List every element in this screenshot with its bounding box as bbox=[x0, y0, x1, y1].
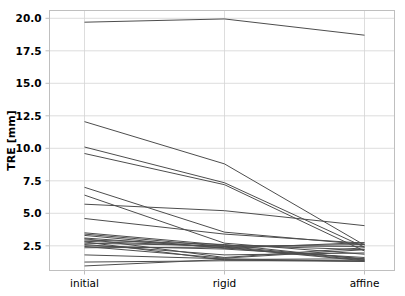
x-tick-label-initial: initial bbox=[70, 277, 99, 289]
x-tick-label-rigid: rigid bbox=[213, 277, 236, 289]
y-tick-label: 5.0 bbox=[23, 207, 42, 219]
y-tick-label: 17.5 bbox=[16, 45, 42, 57]
y-tick-label: 12.5 bbox=[16, 110, 42, 122]
y-tick-label: 10.0 bbox=[16, 142, 42, 154]
y-tick-label: 7.5 bbox=[23, 175, 42, 187]
chart-figure: 2.55.07.510.012.515.017.520.0 initialrig… bbox=[0, 0, 405, 296]
y-axis-label: TRE [mm] bbox=[5, 110, 18, 170]
parallel-coordinates-plot: 2.55.07.510.012.515.017.520.0 initialrig… bbox=[0, 0, 405, 296]
y-tick-label: 20.0 bbox=[16, 12, 42, 24]
x-tick-label-affine: affine bbox=[350, 277, 380, 289]
y-tick-label: 15.0 bbox=[16, 77, 42, 89]
y-tick-label: 2.5 bbox=[23, 240, 42, 252]
